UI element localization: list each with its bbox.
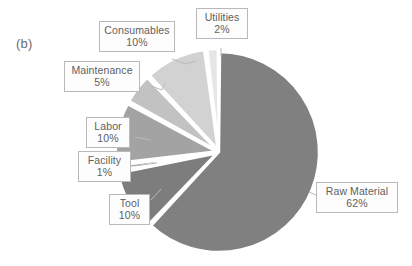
pie-chart-canvas — [0, 0, 412, 266]
callout-facility-value: 1% — [83, 166, 126, 178]
callout-consumables-label: Consumables — [104, 24, 170, 36]
callout-tool-value: 10% — [114, 209, 145, 221]
callout-raw-material-value: 62% — [321, 197, 393, 209]
pie-chart-figure: (b) Utilities 2% Consumables 10% Ma — [0, 0, 412, 266]
callout-maintenance-label: Maintenance — [69, 64, 135, 76]
callout-facility-label: Facility — [83, 154, 126, 166]
callout-consumables[interactable]: Consumables 10% — [99, 21, 175, 52]
callout-raw-material[interactable]: Raw Material 62% — [316, 182, 398, 213]
callout-tool[interactable]: Tool 10% — [109, 194, 150, 225]
callout-utilities-value: 2% — [201, 23, 243, 35]
callout-maintenance[interactable]: Maintenance 5% — [64, 61, 140, 92]
callout-utilities-label: Utilities — [201, 11, 243, 23]
callout-maintenance-value: 5% — [69, 76, 135, 88]
callout-labor[interactable]: Labor 10% — [86, 117, 130, 148]
callout-facility[interactable]: Facility 1% — [78, 151, 131, 182]
callout-utilities[interactable]: Utilities 2% — [196, 8, 248, 39]
callout-tool-label: Tool — [114, 197, 145, 209]
callout-labor-value: 10% — [91, 132, 125, 144]
callout-labor-label: Labor — [91, 120, 125, 132]
callout-consumables-value: 10% — [104, 36, 170, 48]
callout-raw-material-label: Raw Material — [321, 185, 393, 197]
